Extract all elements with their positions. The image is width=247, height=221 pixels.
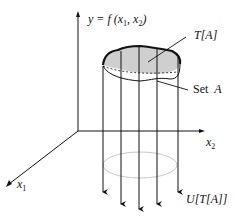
function-label: y = f (x1, x2) (88, 13, 146, 28)
x2-axis-arrow-icon (199, 129, 205, 133)
set-a-leader-line (157, 81, 188, 90)
x2-axis-label: x2 (206, 136, 215, 151)
x1-axis-arrow-icon (6, 180, 12, 187)
function-label-suffix: ) (142, 12, 146, 26)
set-a-symbol: A (214, 82, 221, 96)
y-axis-arrow-icon (76, 11, 80, 17)
image-set-label: T[A] (194, 29, 217, 41)
set-a-word: Set (193, 82, 208, 96)
set-a-label: Set A (193, 83, 222, 95)
x1-sub: 1 (22, 184, 26, 193)
preimage-label: U[T[A]] (186, 193, 227, 205)
projection-ellipse (103, 152, 177, 178)
surface-patch (103, 46, 180, 81)
function-label-prefix: y = f (x (88, 12, 123, 26)
function-label-mid: , x (127, 12, 138, 26)
x2-sub: 2 (211, 142, 215, 151)
set-mapping-diagram: y = f (x1, x2) T[A] Set A x2 x1 U[T[A]] (0, 0, 247, 221)
x1-axis-label: x1 (17, 178, 26, 193)
